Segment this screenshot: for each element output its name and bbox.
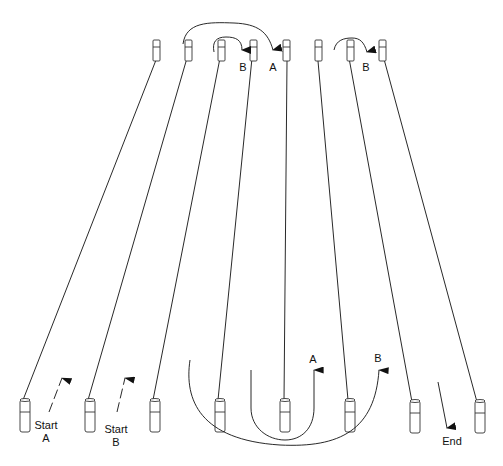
bottom-tube-2 <box>85 399 95 433</box>
line-1 <box>23 60 156 400</box>
label-top-a: A <box>267 61 279 74</box>
bottom-tube-4 <box>215 399 225 433</box>
top-tubes <box>153 40 386 61</box>
start-b-arrow <box>117 378 125 412</box>
line-4 <box>218 58 252 400</box>
bottom-tube-7 <box>410 400 420 434</box>
start-end-arrows <box>49 378 447 428</box>
label-top-b2: B <box>360 61 372 74</box>
line-5 <box>284 61 287 400</box>
top-arrows <box>183 23 367 52</box>
top-tube-4 <box>250 40 257 61</box>
line-3 <box>153 58 220 400</box>
top-tube-6 <box>315 40 322 61</box>
label-start-a-line2: A <box>28 432 64 445</box>
top-tube-5 <box>283 40 290 61</box>
arc-big-a <box>183 23 273 50</box>
bottom-tube-3 <box>150 399 160 433</box>
line-8 <box>381 48 477 402</box>
label-top-b1: B <box>237 61 249 74</box>
top-tube-7 <box>347 40 354 61</box>
connection-lines <box>23 48 477 402</box>
top-tube-1 <box>153 40 160 61</box>
label-end: End <box>438 435 466 448</box>
bottom-tube-5 <box>280 399 290 433</box>
label-start-a: Start A <box>28 419 64 445</box>
line-6 <box>318 61 348 400</box>
bottom-tube-8 <box>475 400 485 434</box>
label-bottom-b: B <box>372 352 384 365</box>
label-start-b-line2: B <box>98 436 134 449</box>
diagram-canvas <box>0 0 503 466</box>
start-a-arrow <box>49 378 62 412</box>
top-tube-3 <box>218 40 225 61</box>
label-start-b-line1: Start <box>98 423 134 436</box>
bottom-tubes <box>20 399 485 434</box>
line-2 <box>88 58 187 400</box>
bottom-tube-6 <box>345 399 355 433</box>
end-arrow <box>438 382 447 428</box>
label-start-b: Start B <box>98 423 134 449</box>
label-start-a-line1: Start <box>28 419 64 432</box>
top-tube-2 <box>185 40 192 61</box>
label-bottom-a: A <box>307 353 319 366</box>
line-7 <box>349 58 412 402</box>
top-tube-8 <box>379 40 386 61</box>
